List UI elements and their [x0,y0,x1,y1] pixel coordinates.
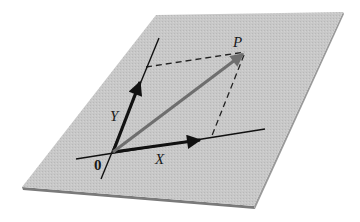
diagram-canvas: P Y X 0 [0,0,360,222]
label-p: P [232,34,242,50]
label-origin: 0 [94,157,102,173]
plane [22,12,343,206]
vector-plane-diagram: P Y X 0 [0,0,360,222]
label-x: X [154,151,165,167]
